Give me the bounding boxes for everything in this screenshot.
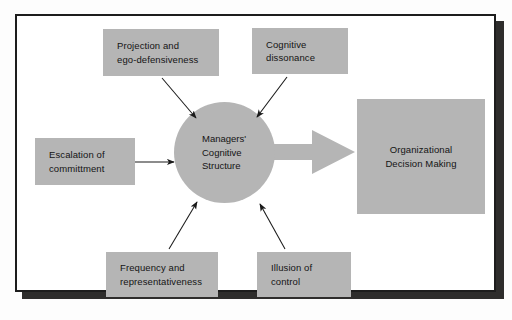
node-cognitive-dissonance: Cognitive dissonance <box>252 28 348 74</box>
node-projection-line-1: Projection and <box>117 39 179 53</box>
node-illusion-line-2: control <box>271 275 300 289</box>
connector-projection-to-center <box>162 78 196 118</box>
center-node-line-3: Structure <box>202 159 241 173</box>
node-illusion-of-control: Illusion of control <box>257 252 351 297</box>
node-outcome-line-2: Decision Making <box>385 157 456 171</box>
center-node-line-1: Managers' <box>202 132 246 146</box>
diagram-frame: Managers' Cognitive Structure Projection… <box>15 14 496 292</box>
diagram-canvas: Managers' Cognitive Structure Projection… <box>0 0 512 320</box>
node-dissonance-line-1: Cognitive <box>266 38 307 52</box>
node-frequency-line-1: Frequency and <box>120 261 185 275</box>
node-projection-and-ego-defensiveness: Projection and ego-defensiveness <box>103 29 219 76</box>
node-frequency-line-2: representativeness <box>120 275 202 289</box>
node-outcome-line-1: Organizational <box>390 143 453 157</box>
node-illusion-line-1: Illusion of <box>271 261 312 275</box>
connector-dissonance-to-center <box>257 77 287 117</box>
node-escalation-of-commitment: Escalation of committment <box>35 138 135 185</box>
connector-illusion-to-center <box>260 204 285 249</box>
connector-frequency-to-center <box>169 202 197 249</box>
node-escalation-line-2: committment <box>49 162 104 176</box>
node-dissonance-line-2: dissonance <box>266 51 315 65</box>
node-projection-line-2: ego-defensiveness <box>117 53 198 67</box>
node-escalation-line-1: Escalation of <box>49 148 105 162</box>
center-node-line-2: Cognitive <box>202 146 242 160</box>
center-node-managers-cognitive-structure: Managers' Cognitive Structure <box>174 102 275 203</box>
node-organizational-decision-making: Organizational Decision Making <box>357 99 485 214</box>
node-frequency-and-representativeness: Frequency and representativeness <box>106 252 218 297</box>
